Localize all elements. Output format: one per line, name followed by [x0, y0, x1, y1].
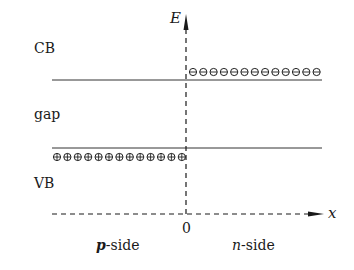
- electron-icon: [272, 68, 279, 75]
- cb-label: CB: [34, 40, 55, 56]
- hole-icon: [105, 153, 112, 160]
- hole-icon: [126, 153, 133, 160]
- electron-icon: [292, 68, 299, 75]
- energy-axis-label: E: [169, 9, 181, 27]
- electron-icon: [313, 68, 320, 75]
- band-diagram: CB gap VB E x 0 p-side n-side: [0, 0, 354, 270]
- electron-icon: [210, 68, 217, 75]
- hole-icon: [95, 153, 102, 160]
- energy-axis: [184, 14, 189, 214]
- gap-label: gap: [34, 106, 60, 122]
- electron-icon: [251, 68, 258, 75]
- arrow-right-icon: [308, 212, 324, 217]
- hole-icon: [168, 153, 175, 160]
- x-axis-label: x: [328, 204, 337, 222]
- electron-icon: [220, 68, 227, 75]
- hole-icon: [157, 153, 164, 160]
- holes-group: [53, 153, 185, 160]
- electron-icon: [303, 68, 310, 75]
- hole-icon: [178, 153, 185, 160]
- hole-icon: [147, 153, 154, 160]
- hole-icon: [64, 153, 71, 160]
- position-axis: [52, 212, 324, 217]
- electrons-group: [189, 68, 320, 75]
- electron-icon: [282, 68, 289, 75]
- electron-icon: [231, 68, 238, 75]
- hole-icon: [85, 153, 92, 160]
- n-side-label: n-side: [232, 237, 275, 253]
- arrow-up-icon: [184, 14, 189, 30]
- hole-icon: [74, 153, 81, 160]
- electron-icon: [200, 68, 207, 75]
- electron-icon: [241, 68, 248, 75]
- origin-label: 0: [182, 220, 191, 236]
- electron-icon: [262, 68, 269, 75]
- vb-label: VB: [33, 175, 54, 191]
- p-side-label: p-side: [96, 237, 139, 253]
- hole-icon: [116, 153, 123, 160]
- hole-icon: [53, 153, 60, 160]
- hole-icon: [137, 153, 144, 160]
- electron-icon: [189, 68, 196, 75]
